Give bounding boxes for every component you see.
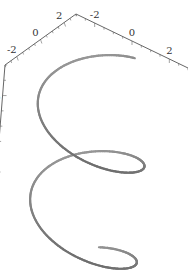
x-minor-tick bbox=[46, 35, 47, 37]
x-minor-tick bbox=[11, 61, 12, 63]
helix-3d-plot: -202-202-505 bbox=[0, 0, 188, 279]
x-major-tick bbox=[41, 40, 42, 44]
y-tick-label: 0 bbox=[129, 27, 135, 38]
x-minor-tick bbox=[29, 48, 30, 50]
x-minor-tick bbox=[35, 44, 36, 46]
z-axis-line bbox=[0, 65, 5, 279]
axes-group bbox=[0, 14, 188, 279]
x-tick-label: -2 bbox=[7, 44, 17, 55]
helix-curve bbox=[30, 55, 144, 269]
y-tick-label: -2 bbox=[90, 9, 100, 20]
z-tick-label: 5 bbox=[0, 91, 1, 102]
x-minor-tick bbox=[70, 18, 71, 20]
y-tick-label: 2 bbox=[166, 45, 172, 56]
x-tick-label: 0 bbox=[32, 27, 38, 38]
x-minor-tick bbox=[58, 27, 59, 29]
tick-labels-group: -202-202-505 bbox=[0, 9, 173, 254]
x-minor-tick bbox=[52, 31, 53, 33]
x-major-tick bbox=[17, 57, 18, 61]
x-minor-tick bbox=[23, 52, 24, 54]
x-major-tick bbox=[64, 23, 65, 27]
x-tick-label: 2 bbox=[56, 10, 62, 21]
